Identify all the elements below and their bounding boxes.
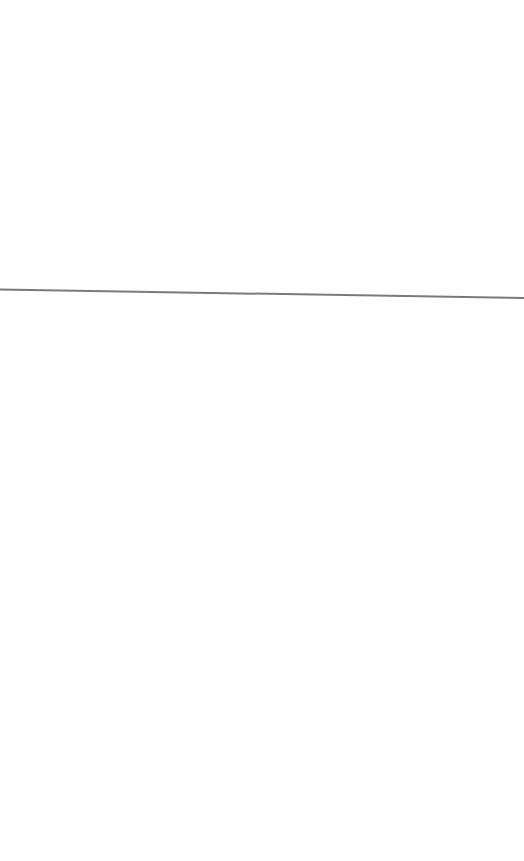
blank-page [0,0,524,861]
divider-line [0,290,524,299]
horizontal-divider [0,0,524,861]
